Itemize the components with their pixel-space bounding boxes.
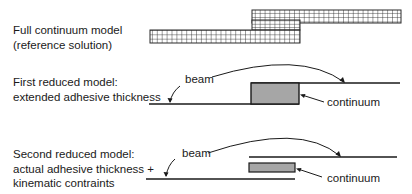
adhesive-mesh xyxy=(252,20,300,30)
beam-arrow-right xyxy=(212,65,344,82)
arrowhead-icon xyxy=(164,172,169,177)
arrowhead-icon xyxy=(336,151,342,157)
arrowhead-icon xyxy=(340,77,346,83)
continuum-annotation: continuum xyxy=(327,172,380,185)
full-continuum-mesh xyxy=(150,10,401,43)
continuum-annotation: continuum xyxy=(327,96,380,109)
beam-arrow-right xyxy=(208,138,340,156)
continuum-arrow xyxy=(298,169,322,177)
lower-adherend-mesh xyxy=(150,30,300,43)
continuum-arrow xyxy=(302,95,324,102)
continuum-block xyxy=(251,83,299,104)
beam-annotation: beam xyxy=(182,147,211,160)
arrowhead-icon xyxy=(296,168,302,172)
beam-annotation: beam xyxy=(185,73,214,86)
continuum-block xyxy=(249,163,295,172)
arrowhead-icon xyxy=(300,94,306,98)
arrowhead-icon xyxy=(168,98,173,103)
